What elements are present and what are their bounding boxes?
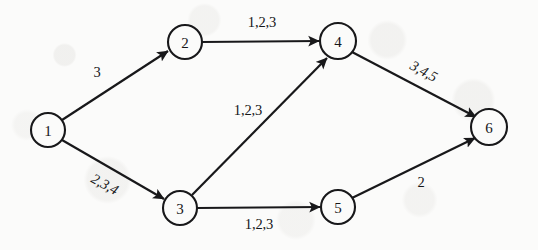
node-2[interactable]: 2 [168, 25, 202, 59]
node-6[interactable]: 6 [471, 109, 507, 145]
edge-label-3-to-5: 1,2,3 [245, 216, 274, 232]
node-6-label: 6 [485, 120, 493, 136]
node-1-label: 1 [44, 123, 52, 139]
edge-label-1-to-2: 3 [93, 64, 100, 80]
edge-5-to-6 [352, 138, 475, 198]
edge-1-to-2 [62, 51, 168, 120]
edge-label-3-to-4: 1,2,3 [234, 102, 263, 118]
edge-2-to-4 [202, 41, 319, 42]
node-3[interactable]: 3 [163, 191, 197, 225]
graph-figure: 1 2 3 4 5 6 3 [0, 0, 538, 250]
edge-3-to-5 [197, 207, 320, 208]
node-5-label: 5 [334, 200, 342, 216]
edge-label-4-to-6: 3,4,5 [407, 57, 441, 85]
node-4[interactable]: 4 [320, 23, 356, 59]
edge-3-to-4 [192, 58, 327, 195]
node-4-label: 4 [334, 34, 342, 50]
edge-label-2-to-4: 1,2,3 [248, 14, 277, 30]
edge-label-1-to-3: 2,3,4 [89, 170, 122, 198]
edge-labels-layer: 3 2,3,4 1,2,3 1,2,3 1,2,3 3,4,5 2 [89, 14, 441, 232]
graph-canvas: 1 2 3 4 5 6 3 [0, 0, 538, 250]
node-1[interactable]: 1 [31, 113, 65, 147]
node-5[interactable]: 5 [321, 190, 355, 224]
nodes-layer: 1 2 3 4 5 6 [31, 23, 507, 225]
node-3-label: 3 [176, 201, 184, 217]
edge-label-5-to-6: 2 [417, 174, 424, 190]
node-2-label: 2 [181, 35, 189, 51]
